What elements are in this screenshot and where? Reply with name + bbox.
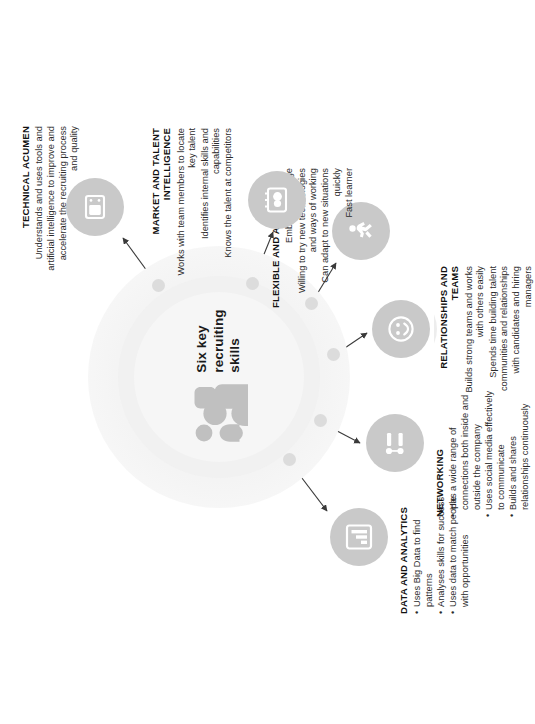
heading-technical-acumen: TECHNICAL ACUMEN [20,126,31,276]
bullets-networking: Has a wide range of connections both ins… [448,387,531,517]
bullets-technical-acumen: Understands and uses tools and artificia… [34,126,81,276]
node-market-and-talent-intelligence[interactable] [248,171,306,229]
list-item: Uses social media effectively to communi… [484,387,507,517]
smiley-face-icon [386,314,416,344]
link-origin-dot [327,348,340,361]
heading-networking: NETWORKING [434,387,445,517]
block-market-and-talent-intelligence: MARKET AND TALENT INTELLIGENCE Works wit… [150,128,236,278]
block-technical-acumen: TECHNICAL ACUMEN Understands and uses to… [20,126,82,276]
bullets-relationships-and-teams: Builds strong teams and works with other… [464,266,535,402]
heading-data-and-analytics: DATA AND ANALYTICS [398,486,409,614]
laptop-icon [80,192,110,222]
bullets-market-and-talent-intelligence: Works with team members to locate key ta… [176,128,236,278]
list-item: Knows the talent at competitors [223,128,235,278]
hub-title: Six key recruiting skills [194,309,243,372]
presentation-board-icon [262,185,292,215]
heading-relationships-and-teams: RELATIONSHIPS AND TEAMS [438,266,461,402]
block-relationships-and-teams: RELATIONSHIPS AND TEAMS Builds strong te… [438,266,535,402]
node-data-and-analytics[interactable] [330,508,388,566]
list-item: Understands and uses tools and artificia… [34,126,81,276]
list-item: Fast learner [344,168,356,308]
link-origin-dot [283,453,296,466]
heading-market-and-talent-intelligence: MARKET AND TALENT INTELLIGENCE [150,128,173,278]
link-origin-dot [246,277,259,290]
link-origin-dot [314,414,327,427]
list-item: Uses Big Data to find patterns [412,486,435,614]
node-relationships-and-teams[interactable] [372,300,430,358]
link-origin-dot [152,279,165,292]
list-item: Builds strong teams and works with other… [464,266,487,402]
hub-center: Six key recruiting skills [134,292,304,462]
list-item: Works with team members to locate key ta… [176,128,199,278]
group-of-people-icon [190,379,248,445]
list-item: Identifies internal skills and capabilit… [200,128,223,278]
list-item: Builds and shares relationships continuo… [508,387,531,517]
block-networking: NETWORKING Has a wide range of connectio… [434,387,532,517]
bar-chart-icon [344,522,374,552]
list-item: Spends time building talent communities … [488,266,535,402]
node-networking[interactable] [366,414,424,472]
list-item: Has a wide range of connections both ins… [448,387,483,517]
list-item: Can adapt to new situations quickly [320,168,343,308]
network-people-icon [380,428,410,458]
